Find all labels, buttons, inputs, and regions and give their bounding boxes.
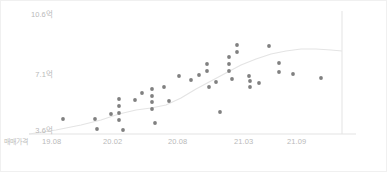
price-scatter-chart: 10.6억 7.1억 3.6억 매매가격 19.08 20.02 20.08 2… <box>0 0 387 172</box>
scatter-point <box>153 121 157 125</box>
scatter-point <box>117 111 121 115</box>
y-tick-label-top: 10.6억 <box>9 10 53 19</box>
scatter-point <box>230 77 234 81</box>
scatter-point <box>267 44 271 48</box>
scatter-point <box>218 110 222 114</box>
scatter-point <box>109 112 113 116</box>
scatter-point <box>235 43 239 47</box>
scatter-points <box>61 43 323 132</box>
x-tick-label-2008: 20.08 <box>168 137 187 146</box>
scatter-point <box>189 78 193 82</box>
scatter-point <box>61 117 65 121</box>
scatter-point <box>197 73 201 77</box>
trend-line <box>29 49 342 134</box>
scatter-point <box>207 85 211 89</box>
x-tick-label-2109: 21.09 <box>287 137 306 146</box>
scatter-point <box>257 81 261 85</box>
scatter-point <box>117 104 121 108</box>
scatter-point <box>150 87 154 91</box>
series-label-sale-price: 매매가격 <box>4 137 28 146</box>
y-tick-label-mid: 7.1억 <box>9 70 53 79</box>
scatter-point <box>205 69 209 73</box>
x-tick-label-2002: 20.02 <box>103 137 122 146</box>
scatter-point <box>291 72 295 76</box>
scatter-point <box>227 62 231 66</box>
scatter-point <box>121 128 125 132</box>
scatter-point <box>227 69 231 73</box>
scatter-point <box>248 85 252 89</box>
scatter-point <box>117 97 121 101</box>
scatter-point <box>277 61 281 65</box>
scatter-point <box>93 117 97 121</box>
chart-canvas <box>1 1 387 172</box>
scatter-point <box>177 74 181 78</box>
scatter-point <box>205 62 209 66</box>
scatter-point <box>133 98 137 102</box>
scatter-point <box>247 74 251 78</box>
scatter-point <box>95 127 99 131</box>
scatter-point <box>227 55 231 59</box>
scatter-point <box>150 94 154 98</box>
x-tick-label-2103: 21.03 <box>234 137 253 146</box>
scatter-point <box>277 70 281 74</box>
scatter-point <box>248 79 252 83</box>
scatter-point <box>319 76 323 80</box>
scatter-point <box>162 85 166 89</box>
y-tick-label-bottom: 3.6억 <box>9 126 53 135</box>
scatter-point <box>150 107 154 111</box>
axis-lines <box>29 11 356 134</box>
scatter-point <box>167 99 171 103</box>
scatter-point <box>150 100 154 104</box>
scatter-point <box>140 91 144 95</box>
scatter-point <box>235 50 239 54</box>
x-tick-label-1908: 19.08 <box>42 137 61 146</box>
scatter-point <box>117 118 121 122</box>
scatter-point <box>214 80 218 84</box>
